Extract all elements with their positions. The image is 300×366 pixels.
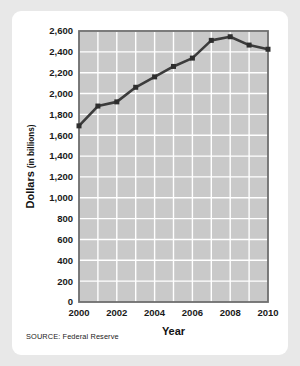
data-point-2010: [266, 47, 271, 52]
x-tick-2010: 2010: [257, 307, 278, 318]
x-axis-title-text: Year: [162, 325, 186, 337]
y-tick-1600: 1,600: [49, 130, 73, 141]
y-tick-2600: 2,600: [49, 25, 73, 36]
y-tick-0: 0: [68, 296, 73, 307]
chart-svg: 02004006008001,0001,2001,4001,6001,8002,…: [12, 11, 288, 355]
data-point-2009: [247, 43, 252, 48]
x-axis-tick-labels: 200020022004200620082010: [68, 307, 278, 318]
y-tick-600: 600: [57, 234, 73, 245]
data-point-2007: [209, 38, 214, 43]
x-axis-title: Year: [162, 325, 186, 337]
y-tick-2400: 2,400: [49, 46, 73, 57]
y-tick-200: 200: [57, 276, 73, 287]
x-tick-2002: 2002: [106, 307, 127, 318]
data-point-2005: [171, 64, 176, 69]
chart-card: 02004006008001,0001,2001,4001,6001,8002,…: [12, 11, 288, 355]
data-point-2002: [114, 99, 119, 104]
data-point-2001: [95, 104, 100, 109]
x-tick-2008: 2008: [220, 307, 241, 318]
y-tick-1000: 1,000: [49, 192, 73, 203]
y-axis-title-text: Dollars(in billions): [24, 124, 36, 208]
x-tick-2006: 2006: [182, 307, 203, 318]
y-tick-1200: 1,200: [49, 171, 73, 182]
x-tick-2004: 2004: [144, 307, 166, 318]
y-axis-tick-labels: 02004006008001,0001,2001,4001,6001,8002,…: [49, 25, 73, 307]
data-point-2003: [133, 85, 138, 90]
x-tick-2000: 2000: [68, 307, 89, 318]
y-tick-800: 800: [57, 213, 73, 224]
line-chart: 02004006008001,0001,2001,4001,6001,8002,…: [12, 11, 288, 355]
source-note: SOURCE: Federal Reserve: [26, 332, 119, 341]
data-point-2004: [152, 74, 157, 79]
data-point-2000: [77, 123, 82, 128]
y-tick-400: 400: [57, 255, 73, 266]
y-tick-1800: 1,800: [49, 109, 73, 120]
data-point-2008: [228, 34, 233, 39]
y-tick-1400: 1,400: [49, 150, 73, 161]
y-axis-title: Dollars(in billions): [24, 124, 36, 208]
data-point-2006: [190, 56, 195, 61]
y-tick-2200: 2,200: [49, 67, 73, 78]
y-tick-2000: 2,000: [49, 88, 73, 99]
